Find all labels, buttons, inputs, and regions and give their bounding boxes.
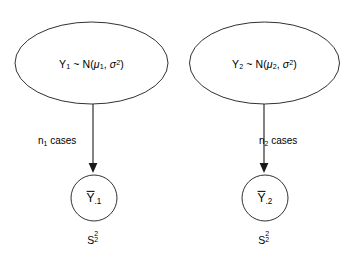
sample-mean-symbol-1: Y [87, 192, 95, 204]
edge-subscript-2: 2 [265, 140, 269, 147]
population-variance-exponent-2: 2 [289, 59, 293, 67]
population-mean-subscript-2: 2 [273, 63, 277, 71]
population-distribution-1: N [83, 58, 91, 70]
diagram-graphics [0, 0, 357, 262]
sampling-edge-label-2: n2 cases [259, 136, 297, 148]
sample-mean-symbol-2: Y [258, 192, 266, 204]
sample-variance-symbol-1: S [87, 234, 94, 246]
sampling-edge-label-1: n1 cases [38, 136, 76, 148]
population-distribution-2: N [256, 58, 264, 70]
population-label-2: Y2 ~ N(μ2, σ2) [232, 59, 297, 72]
sample-mean-label-1: Y.1 [87, 192, 102, 206]
sample-mean-subscript-1: .1 [95, 197, 102, 206]
diagram-canvas: Y1 ~ N(μ1, σ2) n1 cases Y.1 S22 Y2 ~ N(μ… [0, 0, 357, 262]
sample-mean-label-2: Y.2 [258, 192, 273, 206]
population-relation-2: ~ [246, 58, 252, 70]
sample-variance-indices-2: 22 [265, 233, 272, 244]
sample-variance-symbol-2: S [258, 234, 265, 246]
sample-variance-label-1: S22 [87, 233, 101, 245]
sample-variance-subscript-2: 2 [265, 237, 269, 244]
sample-variance-indices-1: 22 [94, 233, 101, 244]
population-variance-exponent-1: 2 [116, 59, 120, 67]
sampling-arrow-head-2 [260, 163, 269, 173]
population-variable-subscript-1: 1 [66, 63, 70, 71]
sample-variance-label-2: S22 [258, 233, 272, 245]
edge-subscript-1: 1 [44, 140, 48, 147]
sampling-arrow-head-1 [89, 163, 98, 173]
sample-variance-subscript-1: 2 [94, 237, 98, 244]
population-label-1: Y1 ~ N(μ1, σ2) [59, 59, 124, 72]
sample-mean-subscript-2: .2 [266, 197, 273, 206]
population-mean-subscript-1: 1 [100, 63, 104, 71]
population-variable-subscript-2: 2 [239, 63, 243, 71]
edge-word-1: cases [50, 135, 76, 146]
population-relation-1: ~ [73, 58, 79, 70]
edge-word-2: cases [271, 135, 297, 146]
